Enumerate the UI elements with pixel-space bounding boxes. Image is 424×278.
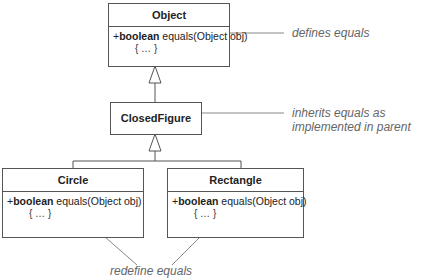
inheritance-arrow-icon: [149, 134, 161, 151]
note-line-circle: [105, 237, 137, 265]
class-closedfigure: ClosedFigure: [110, 102, 202, 135]
method-body: { … }: [3, 207, 143, 219]
method-body: { … }: [109, 42, 229, 54]
class-name: ClosedFigure: [111, 103, 201, 134]
class-circle: Circle +boolean equals(Object obj) { … }: [2, 168, 144, 238]
method-equals: +boolean equals(Object obj): [168, 192, 303, 207]
method-equals: +boolean equals(Object obj): [109, 27, 229, 42]
class-name: Rectangle: [168, 169, 303, 191]
method-body: { … }: [168, 207, 303, 219]
note-line-rectangle: [172, 237, 200, 265]
note-defines-equals: defines equals: [292, 26, 369, 40]
note-redefine-equals: redefine equals: [110, 264, 192, 278]
class-name: Circle: [3, 169, 143, 191]
class-rectangle: Rectangle +boolean equals(Object obj) { …: [167, 168, 304, 238]
note-inherits-equals: inherits equals as implemented in parent: [292, 106, 411, 134]
method-equals: +boolean equals(Object obj): [3, 192, 143, 207]
inheritance-arrow-icon: [149, 66, 161, 83]
class-object: Object +boolean equals(Object obj) { … }: [108, 3, 230, 67]
class-name: Object: [109, 4, 229, 26]
